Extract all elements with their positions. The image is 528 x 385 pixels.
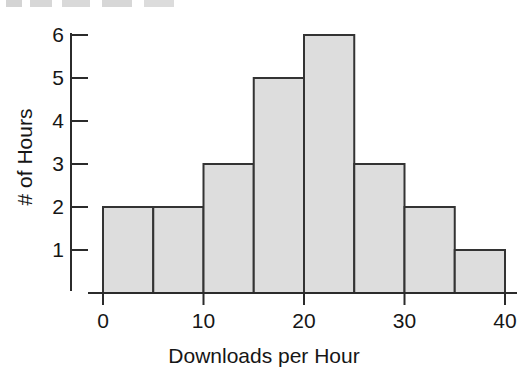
bar-bin-5-10 [153,207,203,293]
x-tick-label-30: 30 [385,310,425,331]
bar-bin-30-35 [405,207,455,293]
x-tick-label-0: 0 [83,310,123,331]
bar-bin-25-30 [354,164,404,293]
histogram-bars [103,35,505,293]
y-tick-label-5: 5 [38,67,64,88]
bar-bin-20-25 [304,35,354,293]
x-axis-ticks [103,293,505,305]
y-tick-label-1: 1 [38,239,64,260]
bar-bin-15-20 [254,78,304,293]
y-tick-label-2: 2 [38,196,64,217]
histogram-figure: 6 5 4 3 2 1 0 10 20 30 40 Downloads per … [0,0,528,385]
bar-bin-10-15 [204,164,254,293]
x-tick-label-10: 10 [184,310,224,331]
x-axis-title: Downloads per Hour [0,344,528,368]
y-axis-ticks [71,35,88,250]
x-tick-label-20: 20 [284,310,324,331]
bar-bin-35-40 [455,250,505,293]
y-axis-title: # of Hours [13,87,37,227]
x-tick-label-40: 40 [485,310,525,331]
y-tick-label-3: 3 [38,153,64,174]
bar-bin-0-5 [103,207,153,293]
y-tick-label-6: 6 [38,24,64,45]
y-tick-label-4: 4 [38,110,64,131]
plot-area [0,0,528,385]
